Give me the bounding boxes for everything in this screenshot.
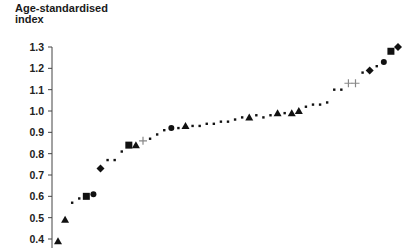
data-point-dot <box>361 71 363 73</box>
data-point-dot <box>283 112 285 114</box>
data-point-dot <box>191 125 193 127</box>
y-tick-label: 1.2 <box>29 62 44 74</box>
data-point-dot <box>71 202 73 204</box>
data-point-dot <box>376 65 378 67</box>
y-tick-label: 0.6 <box>29 190 44 202</box>
data-points <box>54 43 402 244</box>
data-point-dot <box>333 88 335 90</box>
data-point-dot <box>163 129 165 131</box>
scatter-plot: 1.31.21.11.00.90.80.70.60.50.4 <box>0 0 420 248</box>
data-point-dot <box>121 150 123 152</box>
data-point-triangle <box>61 216 69 223</box>
data-point-dot <box>78 197 80 199</box>
data-point-circle <box>90 191 96 197</box>
y-tick-label: 1.0 <box>29 105 44 117</box>
data-point-dot <box>312 103 314 105</box>
y-tick-label: 0.9 <box>29 126 44 138</box>
y-tick-label: 0.7 <box>29 169 44 181</box>
y-tick-label: 0.8 <box>29 148 44 160</box>
data-point-dot <box>326 101 328 103</box>
data-point-plus <box>344 79 352 87</box>
data-point-dot <box>106 159 108 161</box>
data-point-triangle <box>54 237 62 244</box>
data-point-dot <box>213 123 215 125</box>
data-point-diamond <box>97 165 105 173</box>
data-point-dot <box>234 118 236 120</box>
y-tick-label: 1.3 <box>29 41 44 53</box>
data-point-square <box>83 193 90 200</box>
data-point-dot <box>198 125 200 127</box>
data-point-triangle <box>132 141 140 148</box>
data-point-dot <box>319 103 321 105</box>
data-point-triangle <box>245 113 253 120</box>
data-point-dot <box>156 133 158 135</box>
data-point-diamond <box>394 43 402 51</box>
data-point-plus <box>139 137 147 145</box>
data-point-dot <box>255 114 257 116</box>
data-point-circle <box>168 125 174 131</box>
data-point-dot <box>305 106 307 108</box>
data-point-dot <box>220 120 222 122</box>
data-point-dot <box>269 114 271 116</box>
data-point-square <box>387 48 394 55</box>
data-point-dot <box>177 127 179 129</box>
data-point-dot <box>113 159 115 161</box>
y-tick-label: 0.4 <box>29 233 44 245</box>
y-axis: 1.31.21.11.00.90.80.70.60.50.4 <box>29 41 52 248</box>
data-point-triangle <box>295 107 303 114</box>
data-point-dot <box>206 123 208 125</box>
data-point-circle <box>381 59 387 65</box>
data-point-dot <box>262 116 264 118</box>
data-point-triangle <box>288 109 296 116</box>
data-point-square <box>125 142 132 149</box>
data-point-triangle <box>182 122 190 129</box>
data-point-dot <box>241 116 243 118</box>
y-tick-label: 1.1 <box>29 84 44 96</box>
data-point-plus <box>352 79 360 87</box>
data-point-dot <box>149 138 151 140</box>
data-point-dot <box>340 88 342 90</box>
data-point-diamond <box>366 66 374 74</box>
data-point-dot <box>227 120 229 122</box>
data-point-triangle <box>274 109 282 116</box>
y-tick-label: 0.5 <box>29 212 44 224</box>
